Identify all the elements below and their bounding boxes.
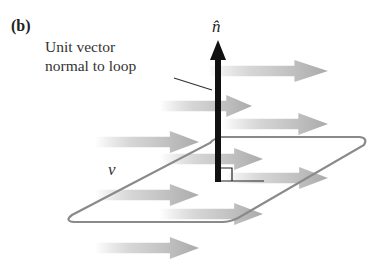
flow-arrow-icon <box>225 167 328 189</box>
velocity-label: v⃗ <box>108 160 129 180</box>
flow-arrow-icon <box>222 113 328 135</box>
caption-leader-line <box>174 78 212 90</box>
unit-normal-label: n̂ <box>212 17 221 37</box>
flow-arrow-icon <box>95 237 199 259</box>
flow-arrow-icon <box>95 131 199 153</box>
diagram-canvas <box>0 0 388 272</box>
flow-arrow-icon <box>208 60 328 82</box>
flow-arrow-icon <box>160 95 252 117</box>
flow-arrow-icon <box>160 148 263 170</box>
